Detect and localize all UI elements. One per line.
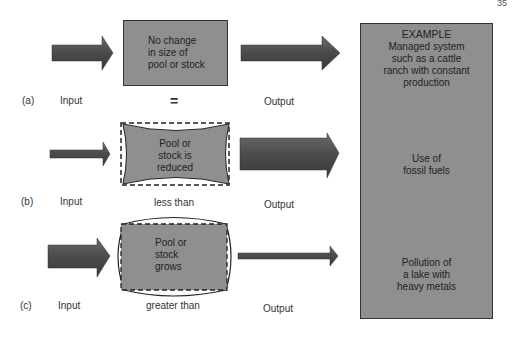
relation-a: = bbox=[170, 93, 178, 109]
example-header: EXAMPLE bbox=[361, 28, 492, 40]
input-arrow-a bbox=[52, 36, 113, 70]
output-label-b: Output bbox=[264, 199, 294, 210]
output-label-c: Output bbox=[263, 303, 293, 314]
input-label-a: Input bbox=[60, 95, 82, 106]
input-label-b: Input bbox=[60, 196, 82, 207]
row-letter-a: (a) bbox=[22, 95, 34, 106]
row-letter-b: (b) bbox=[21, 196, 33, 207]
pool-text-a: No change in size of pool or stock bbox=[148, 35, 205, 71]
output-arrow-b bbox=[240, 133, 339, 178]
pool-box-a: No change in size of pool or stock bbox=[123, 20, 228, 86]
example-text-b: Use of fossil fuels bbox=[361, 153, 492, 177]
input-label-c: Input bbox=[58, 300, 80, 311]
page-number: 35 bbox=[497, 0, 507, 8]
pool-text-b: Pool or stock is reduced bbox=[145, 138, 205, 174]
pool-text-c: Pool or stock grows bbox=[155, 237, 187, 273]
relation-b: less than bbox=[154, 197, 194, 208]
output-arrow-a bbox=[241, 36, 340, 70]
example-box: EXAMPLE Managed system such as a cattle … bbox=[360, 23, 493, 319]
output-arrow-c bbox=[238, 246, 338, 266]
output-label-a: Output bbox=[264, 96, 294, 107]
input-arrow-b bbox=[50, 142, 110, 166]
example-text-c: Pollution of a lake with heavy metals bbox=[361, 257, 492, 293]
row-letter-c: (c) bbox=[20, 300, 32, 311]
example-text-a: Managed system such as a cattle ranch wi… bbox=[361, 41, 492, 89]
input-arrow-c bbox=[48, 238, 110, 277]
relation-c: greater than bbox=[146, 300, 200, 311]
